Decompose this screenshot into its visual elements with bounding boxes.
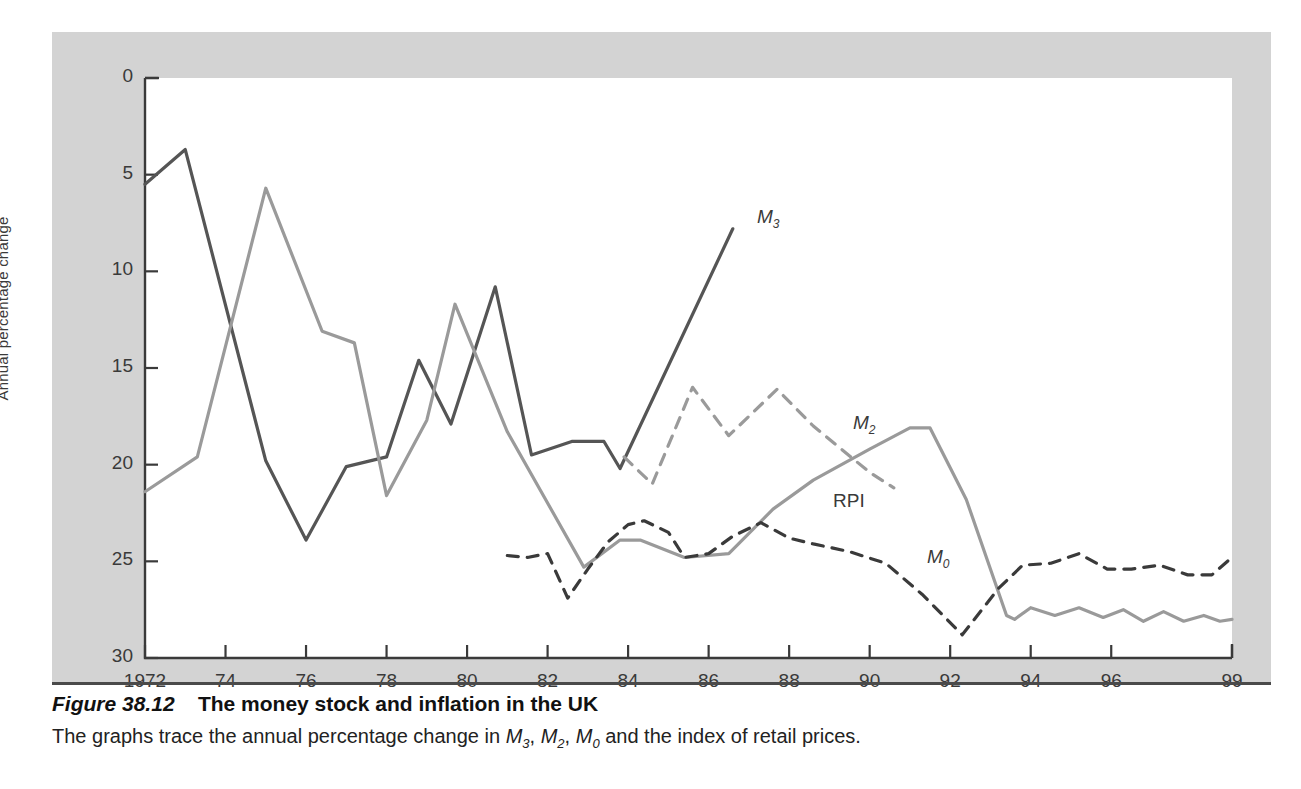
y-tick-label: 0 [87,65,133,87]
x-tick-label: 76 [266,670,346,692]
x-tick-label: 96 [1071,670,1151,692]
y-tick-label: 15 [87,355,133,377]
x-tick-label: 90 [830,670,910,692]
x-tick-label: 86 [669,670,749,692]
series-label-m3: M3 [757,206,780,231]
y-tick-label: 5 [87,162,133,184]
series-label-rpi: RPI [833,490,865,512]
series-line-m2 [624,387,894,488]
y-axis-label: Annual percentage change [0,99,11,519]
y-tick-label: 20 [87,452,133,474]
x-tick-label: 92 [910,670,990,692]
x-tick-label: 94 [991,670,1071,692]
caption-divider [52,682,1271,685]
x-tick-label: 84 [588,670,668,692]
x-tick-label: 78 [347,670,427,692]
figure-caption: Figure 38.12 The money stock and inflati… [52,690,1282,754]
x-tick-label: 74 [186,670,266,692]
caption-subtitle: The graphs trace the annual percentage c… [52,722,1282,753]
x-tick-label: 1972 [105,670,185,692]
series-label-m0: M0 [927,546,950,571]
x-tick-label: 82 [508,670,588,692]
x-tick-label: 80 [427,670,507,692]
figure-number: Figure 38.12 [52,692,175,715]
y-tick-label: 10 [87,258,133,280]
series-label-m2: M2 [853,412,876,437]
figure-root: Annual percentage change 302520151050 19… [0,0,1301,789]
y-tick-label: 30 [87,645,133,667]
series-line-m0 [507,521,1232,635]
y-tick-label: 25 [87,548,133,570]
x-tick-label: 88 [749,670,829,692]
figure-title: The money stock and inflation in the UK [198,692,598,715]
caption-title-line: Figure 38.12 The money stock and inflati… [52,690,1282,718]
series-line-m3 [145,150,733,541]
x-tick-label: 99 [1192,670,1272,692]
